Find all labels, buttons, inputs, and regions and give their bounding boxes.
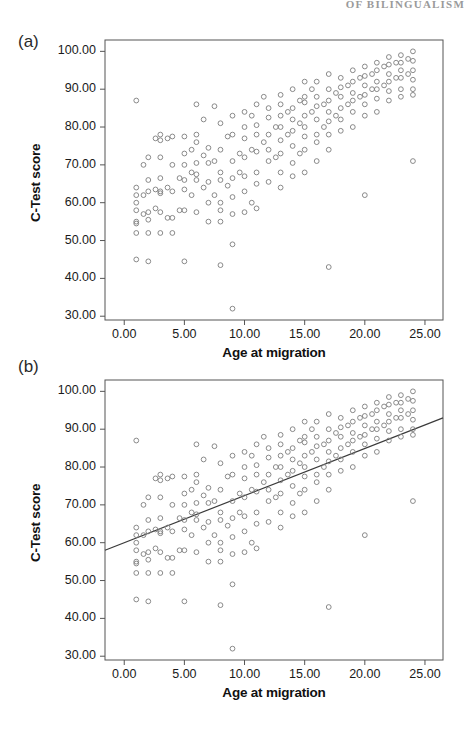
scatter-point xyxy=(370,412,375,417)
scatter-point xyxy=(362,432,367,437)
scatter-point xyxy=(399,53,404,58)
scatter-point xyxy=(273,155,278,160)
scatter-point xyxy=(141,162,146,167)
scatter-point xyxy=(189,510,194,515)
scatter-point xyxy=(302,434,307,439)
axis-frame xyxy=(105,40,443,320)
x-axis-title: Age at migration xyxy=(105,685,443,700)
scatter-point xyxy=(134,208,139,213)
scatter-point xyxy=(411,49,416,54)
scatter-point xyxy=(386,89,391,94)
scatter-point xyxy=(302,453,307,458)
scatter-point xyxy=(290,87,295,92)
scatter-point xyxy=(382,423,387,428)
scatter-point xyxy=(218,121,223,126)
scatter-point xyxy=(290,117,295,122)
scatter-point xyxy=(362,113,367,118)
panel-a: (a) 30.0040.0050.0060.0070.0080.0090.001… xyxy=(0,30,473,360)
scatter-point xyxy=(254,521,259,526)
scatter-point xyxy=(302,170,307,175)
scatter-point xyxy=(165,136,170,141)
scatter-point xyxy=(170,134,175,139)
scatter-point xyxy=(374,436,379,441)
scatter-point xyxy=(158,550,163,555)
scatter-point xyxy=(338,85,343,90)
scatter-point xyxy=(230,582,235,587)
scatter-point xyxy=(362,414,367,419)
scatter-point xyxy=(212,533,217,538)
scatter-point xyxy=(146,155,151,160)
scatter-point xyxy=(290,514,295,519)
scatter-point xyxy=(254,181,259,186)
scatter-point xyxy=(297,151,302,156)
scatter-point xyxy=(212,193,217,198)
scatter-point xyxy=(254,546,259,551)
scatter-point xyxy=(285,449,290,454)
scatter-point xyxy=(254,123,259,128)
scatter-point xyxy=(326,119,331,124)
scatter-point xyxy=(314,132,319,137)
scatter-point xyxy=(261,434,266,439)
scatter-point xyxy=(326,412,331,417)
scatter-point xyxy=(374,449,379,454)
scatter-point xyxy=(146,178,151,183)
scatter-point xyxy=(266,446,271,451)
scatter-point xyxy=(266,179,271,184)
scatter-point xyxy=(278,510,283,515)
scatter-point xyxy=(165,185,170,190)
scatter-point xyxy=(374,79,379,84)
scatter-point xyxy=(266,519,271,524)
scatter-point xyxy=(399,87,404,92)
scatter-point xyxy=(290,144,295,149)
scatter-point xyxy=(158,176,163,181)
scatter-point xyxy=(350,68,355,73)
scatter-point xyxy=(273,125,278,130)
scatter-point xyxy=(302,113,307,118)
scatter-point xyxy=(297,461,302,466)
scatter-point xyxy=(350,125,355,130)
scatter-point xyxy=(153,546,158,551)
scatter-point xyxy=(206,200,211,205)
scatter-point xyxy=(334,453,339,458)
scatter-point xyxy=(242,449,247,454)
scatter-point xyxy=(237,510,242,515)
scatter-point xyxy=(182,187,187,192)
scatter-point xyxy=(338,128,343,133)
scatter-point xyxy=(230,159,235,164)
scatter-point xyxy=(218,219,223,224)
scatter-point xyxy=(290,457,295,462)
scatter-point xyxy=(346,442,351,447)
scatter-point xyxy=(254,149,259,154)
scatter-point xyxy=(278,102,283,107)
scatter-point xyxy=(182,178,187,183)
scatter-point xyxy=(370,427,375,432)
scatter-point xyxy=(218,559,223,564)
y-tick-label: 70.00 xyxy=(65,497,96,511)
scatter-point xyxy=(334,431,339,436)
scatter-point xyxy=(266,487,271,492)
scatter-point xyxy=(134,200,139,205)
scatter-point xyxy=(346,102,351,107)
scatter-point xyxy=(194,480,199,485)
scatter-point xyxy=(326,605,331,610)
scatter-point xyxy=(134,231,139,236)
y-tick-label: 60.00 xyxy=(65,535,96,549)
scatter-point xyxy=(350,109,355,114)
scatter-point xyxy=(322,442,327,447)
scatter-point xyxy=(158,516,163,521)
x-tick-label: 5.00 xyxy=(158,667,210,681)
scatter-point xyxy=(358,415,363,420)
scatter-point xyxy=(278,442,283,447)
scatter-point xyxy=(153,206,158,211)
scatter-point xyxy=(134,98,139,103)
scatter-points xyxy=(134,49,415,311)
scatter-point xyxy=(146,189,151,194)
scatter-point xyxy=(134,571,139,576)
scatter-point xyxy=(314,117,319,122)
scatter-point xyxy=(338,94,343,99)
scatter-point xyxy=(146,518,151,523)
scatter-point xyxy=(134,597,139,602)
scatter-point xyxy=(358,75,363,80)
scatter-point xyxy=(165,555,170,560)
scatter-point xyxy=(218,540,223,545)
